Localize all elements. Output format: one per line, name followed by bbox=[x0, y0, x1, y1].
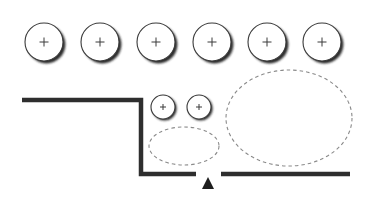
walls-group bbox=[22, 100, 350, 174]
large-plus-circle[interactable] bbox=[137, 23, 177, 63]
diagram-svg bbox=[0, 0, 369, 200]
large-circles-group bbox=[25, 23, 343, 63]
diagram-canvas bbox=[0, 0, 369, 200]
large-plus-circle[interactable] bbox=[248, 23, 288, 63]
large-plus-circle[interactable] bbox=[81, 23, 121, 63]
small-circles-group bbox=[151, 95, 213, 121]
large-plus-circle[interactable] bbox=[193, 23, 233, 63]
small-plus-circle[interactable] bbox=[151, 95, 177, 121]
dashed-ellipse-zone bbox=[226, 70, 352, 166]
large-plus-circle[interactable] bbox=[25, 23, 65, 63]
large-plus-circle[interactable] bbox=[303, 23, 343, 63]
dashed-ellipse-zone bbox=[149, 127, 219, 165]
marker-group bbox=[202, 177, 214, 189]
triangle-up-icon bbox=[202, 177, 214, 189]
small-plus-circle[interactable] bbox=[187, 95, 213, 121]
dashed-ellipses-group bbox=[149, 70, 352, 166]
